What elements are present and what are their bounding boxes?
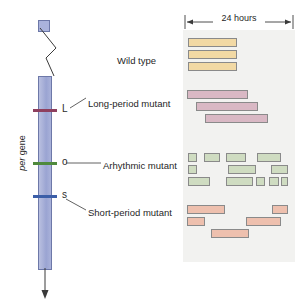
activity-bar bbox=[256, 177, 265, 186]
activity-bar bbox=[211, 229, 249, 238]
per-gene-label-italic: per bbox=[17, 158, 27, 171]
scale-bar: 24 hours bbox=[183, 14, 295, 30]
figure-root: per gene Los Wild typeLong-period mutant… bbox=[0, 0, 301, 301]
activity-bar bbox=[226, 153, 246, 162]
activity-bar bbox=[269, 177, 279, 186]
allele-tick-L bbox=[33, 109, 57, 112]
activity-bar bbox=[257, 153, 281, 162]
per-gene-label-rest: gene bbox=[17, 135, 27, 158]
row-label-long-period-mutant: Long-period mutant bbox=[88, 99, 170, 109]
activity-bar bbox=[246, 217, 281, 226]
allele-letter-o: o bbox=[62, 157, 68, 167]
row-label-wild-type: Wild type bbox=[117, 56, 156, 66]
allele-letter-s: s bbox=[62, 190, 67, 200]
activity-bar bbox=[188, 177, 210, 186]
activity-bar bbox=[226, 177, 253, 186]
gene-direction-arrow bbox=[36, 268, 56, 300]
activity-bar bbox=[204, 153, 220, 162]
gene-body-bar bbox=[38, 76, 52, 270]
activity-bar bbox=[188, 165, 197, 174]
activity-bar bbox=[187, 205, 225, 214]
allele-tick-s bbox=[33, 195, 57, 198]
activity-bar bbox=[187, 90, 248, 99]
per-gene-label: per gene bbox=[17, 123, 27, 183]
activity-bar bbox=[188, 62, 237, 71]
actogram-panel bbox=[183, 30, 295, 262]
activity-bar bbox=[188, 50, 237, 59]
activity-bar bbox=[188, 38, 237, 47]
row-label-short-period-mutant: Short-period mutant bbox=[88, 208, 172, 218]
activity-bar bbox=[188, 153, 197, 162]
activity-bar bbox=[187, 217, 205, 226]
allele-letter-L: L bbox=[62, 104, 68, 114]
allele-tick-o bbox=[33, 162, 57, 165]
scale-bar-label: 24 hours bbox=[183, 14, 295, 23]
gene-intron-line bbox=[36, 26, 70, 76]
activity-bar bbox=[271, 165, 288, 174]
activity-bar bbox=[228, 165, 256, 174]
activity-bar bbox=[281, 177, 288, 186]
activity-bar bbox=[205, 114, 268, 123]
activity-bar bbox=[272, 205, 288, 214]
activity-bar bbox=[196, 102, 258, 111]
row-label-arhythmic-mutant: Arhythmic mutant bbox=[103, 161, 177, 171]
